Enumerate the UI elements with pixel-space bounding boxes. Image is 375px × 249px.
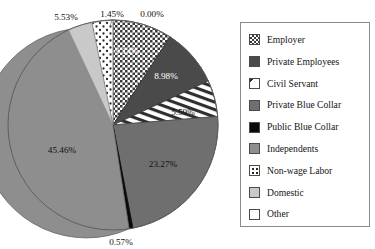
slice-label-civil-servant: 5.59% (171, 107, 195, 117)
legend-item-private-blue-collar[interactable]: Private Blue Collar (249, 94, 369, 116)
legend-item-employer[interactable]: Employer (249, 29, 369, 51)
legend-swatch-medium-gray-icon (249, 100, 260, 111)
legend-label-non-wage-labor: Non-wage Labor (267, 166, 332, 176)
pie-chart-area: 9.14% 8.98% 5.59% 23.27% 0.57% 45.46% 1.… (0, 0, 232, 249)
legend-item-domestic[interactable]: Domestic (249, 182, 369, 204)
legend-item-other[interactable]: Other (249, 203, 369, 225)
legend-swatch-dots-icon (249, 165, 260, 176)
slice-label-domestic: 5.53% (54, 12, 78, 22)
legend-label-independents: Independents (267, 144, 318, 154)
slice-label-private-employees: 8.98% (154, 71, 178, 81)
legend-item-civil-servant[interactable]: Civil Servant (249, 73, 369, 95)
legend-item-non-wage-labor[interactable]: Non-wage Labor (249, 160, 369, 182)
legend-swatch-black-icon (249, 122, 260, 133)
legend-swatch-diagonal-stripes-icon (249, 78, 260, 89)
legend-list: Employer Private Employees Civil Servant… (249, 29, 369, 225)
pie-chart-svg: 9.14% 8.98% 5.59% 23.27% 0.57% 45.46% 1.… (0, 0, 232, 249)
legend: Employer Private Employees Civil Servant… (240, 22, 370, 227)
legend-label-public-blue-collar: Public Blue Collar (267, 122, 338, 132)
legend-swatch-checkerboard-icon (249, 34, 260, 45)
legend-item-private-employees[interactable]: Private Employees (249, 51, 369, 73)
legend-swatch-white-icon (249, 209, 260, 220)
slice-label-non-wage-labor: 1.45% (100, 9, 124, 19)
legend-label-domestic: Domestic (267, 188, 304, 198)
legend-label-other: Other (267, 209, 289, 219)
legend-swatch-light-gray-icon (249, 187, 260, 198)
legend-label-civil-servant: Civil Servant (267, 79, 318, 89)
legend-item-public-blue-collar[interactable]: Public Blue Collar (249, 116, 369, 138)
slice-label-public-blue-collar: 0.57% (109, 237, 133, 247)
legend-item-independents[interactable]: Independents (249, 138, 369, 160)
legend-swatch-light-medium-gray-icon (249, 143, 260, 154)
slice-label-independents: 45.46% (48, 145, 77, 155)
pie-chart-figure: 9.14% 8.98% 5.59% 23.27% 0.57% 45.46% 1.… (0, 0, 375, 249)
slice-label-private-blue-collar: 23.27% (149, 159, 178, 169)
legend-label-private-blue-collar: Private Blue Collar (267, 100, 341, 110)
slice-label-employer: 9.14% (115, 46, 139, 56)
legend-label-private-employees: Private Employees (267, 57, 339, 67)
slice-label-other: 0.00% (140, 9, 164, 19)
legend-swatch-dark-gray-icon (249, 56, 260, 67)
legend-label-employer: Employer (267, 35, 305, 45)
